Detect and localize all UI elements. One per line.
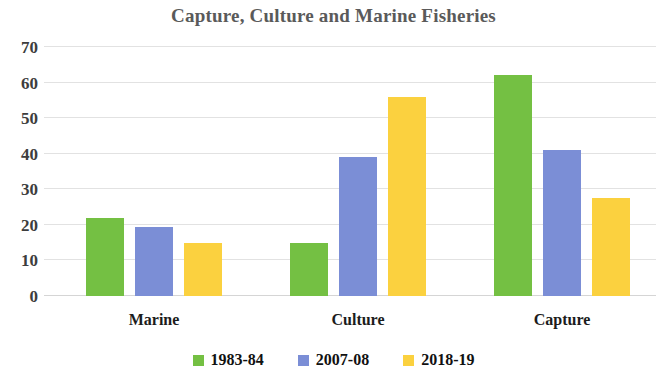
chart-legend: 1983-842007-082018-19 — [0, 352, 667, 368]
bar — [290, 243, 328, 296]
x-axis-label-marine: Marine — [129, 311, 180, 329]
bar — [184, 243, 222, 296]
bar-group — [44, 47, 248, 296]
bar — [339, 157, 377, 296]
x-axis-category-labels: MarineCultureCapture — [44, 311, 656, 335]
y-axis-tick-label: 60 — [21, 74, 38, 91]
y-axis: 010203040506070 — [0, 47, 38, 296]
x-axis-label-capture: Capture — [534, 311, 591, 329]
bar-group — [248, 47, 452, 296]
bar — [86, 218, 124, 296]
legend-swatch-icon — [193, 355, 204, 366]
x-axis-label-culture: Culture — [331, 311, 384, 329]
bar — [388, 97, 426, 296]
y-axis-tick-label: 10 — [21, 252, 38, 269]
legend-item[interactable]: 1983-84 — [193, 352, 264, 368]
legend-swatch-icon — [298, 355, 309, 366]
bar — [494, 75, 532, 296]
bar — [592, 198, 630, 296]
y-axis-tick-label: 30 — [21, 181, 38, 198]
legend-item[interactable]: 2018-19 — [403, 352, 474, 368]
legend-swatch-icon — [403, 355, 414, 366]
bar — [135, 227, 173, 296]
y-axis-tick-label: 70 — [21, 39, 38, 56]
plot-area — [44, 47, 656, 296]
y-axis-tick-label: 20 — [21, 216, 38, 233]
y-axis-tick-label: 0 — [30, 288, 39, 305]
bar-chart: Capture, Culture and Marine Fisheries 01… — [0, 0, 667, 377]
legend-label: 2018-19 — [421, 352, 474, 368]
legend-item[interactable]: 2007-08 — [298, 352, 369, 368]
legend-label: 2007-08 — [316, 352, 369, 368]
legend-label: 1983-84 — [211, 352, 264, 368]
chart-title: Capture, Culture and Marine Fisheries — [0, 5, 667, 27]
bar — [543, 150, 581, 296]
y-axis-tick-label: 40 — [21, 145, 38, 162]
y-axis-tick-label: 50 — [21, 110, 38, 127]
bar-group — [452, 47, 656, 296]
